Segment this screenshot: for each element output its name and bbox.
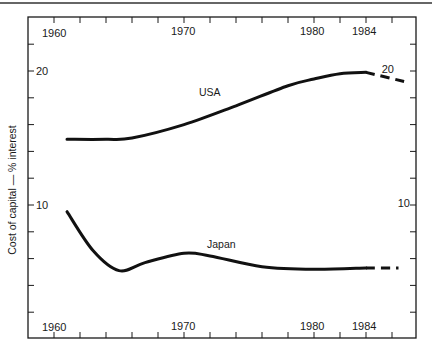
top-x-label-1960: 1960 <box>42 27 66 39</box>
y-axis-ticks <box>28 44 416 312</box>
x-axis-ticks <box>54 17 392 338</box>
top-x-label-1970: 1970 <box>171 25 195 37</box>
cost-of-capital-chart: 1960 1970 1980 1984 1960 1970 1980 1984 … <box>0 0 432 349</box>
right-y-label-20: 20 <box>382 63 394 75</box>
left-y-label-10: 10 <box>36 199 48 211</box>
usa-line <box>67 72 366 139</box>
top-x-label-1980: 1980 <box>300 25 324 37</box>
plot-frame <box>28 17 416 338</box>
y-axis-title: Cost of capital — % interest <box>6 125 18 255</box>
bottom-x-label-1980: 1980 <box>300 320 324 332</box>
bottom-x-label-1970: 1970 <box>171 320 195 332</box>
japan-label: Japan <box>207 238 236 250</box>
top-x-label-1984: 1984 <box>352 25 376 37</box>
right-y-label-10: 10 <box>398 197 410 209</box>
left-y-label-20: 20 <box>36 65 48 77</box>
bottom-x-label-1984: 1984 <box>352 320 376 332</box>
bottom-x-label-1960: 1960 <box>42 321 66 333</box>
usa-label: USA <box>199 86 221 98</box>
